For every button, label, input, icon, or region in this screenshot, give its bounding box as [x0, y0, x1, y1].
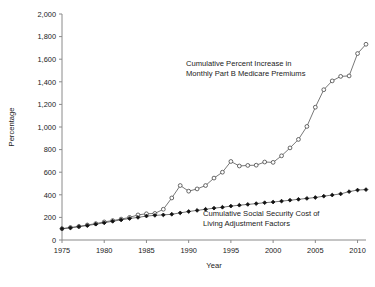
data-point-medicare — [364, 42, 368, 46]
chart-figure: 02004006008001,0001,2001,4001,6001,8002,… — [0, 0, 375, 287]
data-point-cola — [170, 212, 174, 216]
data-point-medicare — [204, 184, 208, 188]
data-point-medicare — [288, 146, 292, 150]
y-tick-label: 2,000 — [38, 10, 57, 19]
x-tick-label: 1995 — [223, 246, 239, 255]
data-point-medicare — [254, 163, 258, 167]
y-tick-label: 1,400 — [38, 78, 57, 87]
data-point-cola — [246, 203, 250, 207]
x-tick-label: 2010 — [349, 246, 365, 255]
data-point-cola — [322, 194, 326, 198]
cola-annotation-line-2: Living Adjustment Factors — [203, 219, 290, 228]
data-point-cola — [305, 197, 309, 201]
data-point-medicare — [347, 74, 351, 78]
data-point-medicare — [297, 138, 301, 142]
data-point-medicare — [195, 187, 199, 191]
data-point-cola — [364, 188, 368, 192]
data-point-medicare — [229, 160, 233, 164]
y-tick-label: 0 — [52, 236, 56, 245]
y-tick-label: 1,600 — [38, 55, 57, 64]
data-point-cola — [237, 203, 241, 207]
data-point-cola — [254, 202, 258, 206]
data-point-cola — [339, 192, 343, 196]
data-point-medicare — [339, 74, 343, 78]
data-point-medicare — [280, 154, 284, 158]
x-tick-label: 1985 — [138, 246, 154, 255]
cola-annotation-line-1: Cumulative Social Security Cost of — [203, 209, 320, 218]
data-point-cola — [161, 213, 165, 217]
y-tick-label: 600 — [44, 168, 56, 177]
data-point-cola — [280, 199, 284, 203]
data-point-medicare — [246, 164, 250, 168]
line-chart: 02004006008001,0001,2001,4001,6001,8002,… — [0, 0, 375, 287]
data-point-cola — [263, 201, 267, 205]
data-point-medicare — [212, 176, 216, 180]
data-point-cola — [297, 197, 301, 201]
data-point-cola — [313, 196, 317, 200]
data-point-cola — [178, 211, 182, 215]
x-tick-label: 2000 — [265, 246, 281, 255]
y-tick-label: 800 — [44, 145, 56, 154]
data-point-medicare — [237, 164, 241, 168]
data-point-medicare — [322, 88, 326, 92]
data-point-cola — [330, 193, 334, 197]
data-point-medicare — [313, 105, 317, 109]
y-tick-label: 1,200 — [38, 100, 57, 109]
y-tick-label: 1,800 — [38, 32, 57, 41]
y-axis-title: Percentage — [7, 108, 16, 147]
data-point-medicare — [187, 189, 191, 193]
data-point-cola — [195, 208, 199, 212]
x-tick-label: 1990 — [180, 246, 196, 255]
y-tick-label: 1,000 — [38, 123, 57, 132]
data-point-medicare — [330, 79, 334, 83]
y-tick-label: 200 — [44, 213, 56, 222]
data-point-cola — [347, 190, 351, 194]
x-tick-label: 2005 — [307, 246, 323, 255]
data-point-medicare — [178, 184, 182, 188]
data-point-medicare — [263, 160, 267, 164]
data-point-medicare — [161, 207, 165, 211]
data-point-medicare — [271, 160, 275, 164]
data-point-cola — [356, 188, 360, 192]
data-point-cola — [187, 210, 191, 214]
data-point-medicare — [221, 170, 225, 174]
data-point-cola — [271, 200, 275, 204]
data-point-medicare — [170, 196, 174, 200]
data-point-cola — [229, 204, 233, 208]
x-tick-label: 1975 — [54, 246, 70, 255]
x-tick-label: 1980 — [96, 246, 112, 255]
data-point-medicare — [305, 125, 309, 129]
data-point-medicare — [356, 52, 360, 56]
medicare-annotation-line-1: Cumulative Percent Increase in — [186, 59, 292, 68]
y-tick-label: 400 — [44, 191, 56, 200]
data-point-cola — [288, 198, 292, 202]
medicare-annotation-line-2: Monthly Part B Medicare Premiums — [186, 69, 306, 78]
x-axis-title: Year — [206, 261, 222, 270]
